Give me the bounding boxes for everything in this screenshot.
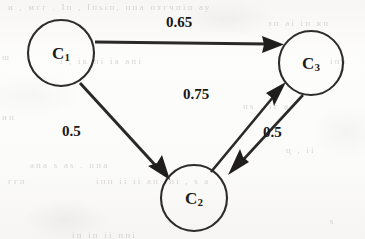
- edge-weight-c3-c2: 0.5: [263, 124, 282, 141]
- graph-canvas: [0, 0, 365, 239]
- edge-c1-c3-line: [95, 42, 268, 44]
- edge-weight-c1-c3: 0.65: [166, 14, 192, 31]
- edge-c1-c2-line: [80, 83, 156, 166]
- node-label-subscript: 3: [314, 61, 320, 73]
- edge-c3-c2-arrowhead: [228, 149, 249, 175]
- node-label-subscript: 1: [64, 51, 70, 63]
- node-label-c1: C1: [52, 44, 70, 64]
- edge-c1-c2: [80, 83, 170, 180]
- node-label-subscript: 2: [197, 196, 203, 208]
- node-label-c3: C3: [302, 54, 320, 74]
- node-label-base: C: [52, 44, 64, 63]
- node-label-base: C: [302, 54, 314, 73]
- edge-weight-c1-c2: 0.5: [62, 123, 81, 140]
- node-label-c2: C2: [185, 189, 203, 209]
- node-label-base: C: [185, 189, 197, 208]
- scanned-diagram-page: и , мгг . Іп , Іпѕіп, ппа птгчпіп аузп а…: [0, 0, 365, 239]
- edge-c1-c3: [95, 36, 284, 53]
- edge-weight-c2-c3: 0.75: [183, 86, 209, 103]
